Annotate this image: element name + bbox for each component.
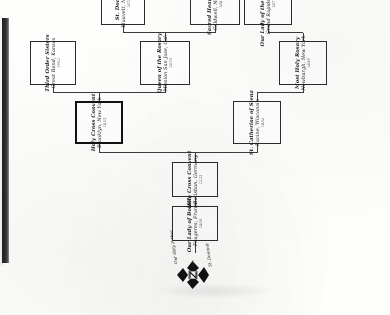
connector-n3-bus	[53, 92, 165, 93]
node-year: 1806	[199, 218, 203, 228]
node-place: Caldwell, New Jersey	[213, 0, 218, 30]
node-queen-of-the-rosary-mission-san-jose[interactable]: Queen of the Rosary Mission San Jose, Ca…	[140, 41, 190, 85]
node-place: Newburgh, New York	[301, 35, 306, 90]
node-year: 1877	[272, 0, 276, 7]
node-place: Racine, Wisconsin	[255, 99, 260, 146]
scan-smudge	[150, 283, 280, 299]
connector-n4-bus	[257, 92, 303, 93]
node-place: Great Bend, Kansas	[51, 37, 56, 88]
node-year: 1876	[169, 58, 173, 68]
node-sacred-heart-caldwell[interactable]: Sacred Heart of Jesus Caldwell, New Jers…	[190, 0, 240, 25]
genealogy-chart: Our Holy Father St. Dominic Our Lady of …	[20, 13, 370, 303]
node-holy-cross-brooklyn[interactable]: Holy Cross Convent Brooklyn, New York 18…	[75, 101, 123, 144]
node-st-dominic-blauvelt[interactable]: St. Dominic Blauvelt, New York 1878	[101, 0, 145, 25]
node-year: 1881	[219, 0, 223, 7]
node-place: Mission San Jose, Cal.	[163, 34, 168, 91]
connector-n6-bus	[123, 32, 215, 33]
node-year: 1902	[57, 58, 61, 68]
connector-n7-bus	[268, 32, 303, 33]
node-st-catherine-racine[interactable]: St. Catherine of Siena Racine, Wisconsin…	[233, 101, 281, 144]
node-place: Blauvelt, New York	[121, 0, 126, 27]
scan-dark-edge-artifact	[2, 18, 9, 263]
node-year: 1869	[307, 58, 311, 68]
node-holy-cross-ratisbon[interactable]: Holy Cross Convent Ratisbon, Germany 123…	[172, 162, 218, 197]
node-place: Fougeres, France	[193, 200, 198, 245]
node-year: 1862	[261, 117, 265, 127]
node-year: 1853	[103, 117, 107, 127]
node-our-lady-of-bouille[interactable]: Our Lady of Bouille Fougeres, France 180…	[172, 206, 218, 241]
node-third-order-great-bend[interactable]: Third Order Sisters Great Bend, Kansas 1…	[30, 41, 76, 85]
node-most-holy-rosary-newburgh[interactable]: Most Holy Rosary Newburgh, New York 1869	[279, 41, 327, 85]
node-place: Ratisbon, Germany	[193, 154, 198, 203]
node-our-lady-sacred-heart-grand-rapids[interactable]: Our Lady of the Sacred Heart Grand Rapid…	[244, 0, 292, 25]
connector-n2-bus	[99, 152, 257, 153]
node-place: Grand Rapids, Michigan	[266, 0, 271, 34]
node-year: 1233	[199, 174, 203, 184]
node-place: Brooklyn, New York	[97, 96, 102, 147]
node-year: 1878	[127, 0, 131, 7]
